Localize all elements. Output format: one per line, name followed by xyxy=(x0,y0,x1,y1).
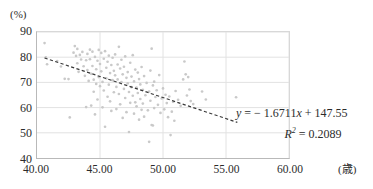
y-axis-tick-80: 80 xyxy=(2,51,32,63)
x-axis-tick-40.00: 40.00 xyxy=(23,163,49,175)
y-axis-tick-60: 60 xyxy=(2,102,32,114)
r-squared-value: R2 = 0.2089 xyxy=(236,122,348,143)
x-axis-tick-50.00: 50.00 xyxy=(150,163,176,175)
y-axis-tick-50: 50 xyxy=(2,127,32,139)
scatter-chart: (%) 908070605040 40.0045.0050.0055.0060.… xyxy=(0,0,373,189)
x-axis-tick-60.00: 60.00 xyxy=(277,163,303,175)
y-axis-tick-70: 70 xyxy=(2,76,32,88)
x-axis-tick-45.00: 45.00 xyxy=(87,163,113,175)
regression-equation: y = − 1.6711x + 147.55 xyxy=(236,105,348,122)
regression-annotation: y = − 1.6711x + 147.55 R2 = 0.2089 xyxy=(236,105,348,143)
y-axis-unit-label: (%) xyxy=(10,8,27,20)
x-axis-tick-55.00: 55.00 xyxy=(214,163,240,175)
y-axis-tick-90: 90 xyxy=(2,25,32,37)
x-axis-unit-label: (歳) xyxy=(338,163,356,175)
